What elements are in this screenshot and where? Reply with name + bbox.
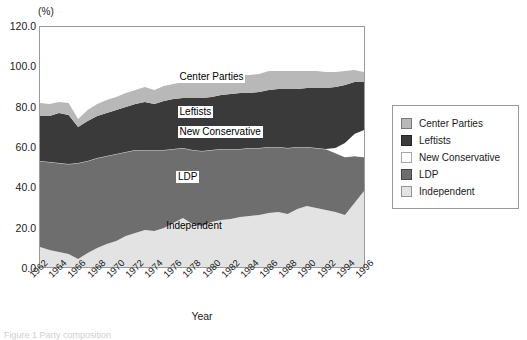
y-axis-tick-label: 20.0 <box>0 222 36 234</box>
y-axis-unit-label: (%) <box>38 6 54 17</box>
legend-swatch-icon <box>401 152 412 163</box>
legend-item-label: LDP <box>419 169 438 180</box>
legend-swatch-icon <box>401 135 412 146</box>
y-axis-tick-label: 60.0 <box>0 141 36 153</box>
area-label-independent: Independent <box>166 220 222 232</box>
legend-item-label: Center Parties <box>419 118 483 129</box>
legend-swatch-icon <box>401 118 412 129</box>
legend-item-ldp[interactable]: LDP <box>401 166 512 182</box>
chart-plot-area <box>39 26 365 268</box>
legend-swatch-icon <box>401 169 412 180</box>
legend-item-label: New Conservative <box>419 152 500 163</box>
x-axis-title: Year <box>39 310 365 322</box>
area-label-new-conservative: New Conservative <box>178 126 263 138</box>
legend-item-label: Independent <box>419 186 475 197</box>
y-axis-tick-label: 100.0 <box>0 60 36 72</box>
area-label-leftists: Leftists <box>178 106 214 118</box>
legend-item-independent[interactable]: Independent <box>401 183 512 199</box>
y-axis-tick-label: 40.0 <box>0 181 36 193</box>
legend-item-new-conservative[interactable]: New Conservative <box>401 149 512 165</box>
legend-item-center-parties[interactable]: Center Parties <box>401 115 512 131</box>
area-label-center-parties: Center Parties <box>178 71 246 83</box>
legend-swatch-icon <box>401 186 412 197</box>
x-axis-tick-labels: 1962196419661968197019721974197619781980… <box>0 270 527 314</box>
area-label-ldp: LDP <box>176 171 199 183</box>
chart-legend: Center PartiesLeftistsNew ConservativeLD… <box>392 105 519 209</box>
legend-item-leftists[interactable]: Leftists <box>401 132 512 148</box>
y-axis-tick-label: 120.0 <box>0 20 36 32</box>
y-axis-tick-label: 80.0 <box>0 101 36 113</box>
legend-item-label: Leftists <box>419 135 451 146</box>
figure-caption: Figure 1 Party composition <box>4 330 111 340</box>
